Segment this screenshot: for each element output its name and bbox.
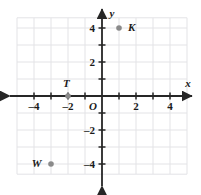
- coordinate-graph: –4–22442–2–4O xy KTW: [0, 0, 201, 195]
- axis-names: xy: [108, 7, 192, 89]
- point-marker-k: [116, 25, 122, 31]
- point-label-k: K: [127, 21, 136, 33]
- x-axis-name: x: [184, 77, 191, 89]
- origin-label: O: [89, 100, 97, 112]
- x-tick-label: –2: [62, 100, 75, 112]
- y-tick-label: 4: [90, 22, 96, 34]
- y-tick-label: 2: [90, 56, 96, 68]
- point-marker-t: [65, 93, 71, 99]
- coordinate-plane-figure: –4–22442–2–4O xy KTW: [0, 0, 201, 195]
- y-tick-label: –4: [83, 158, 96, 170]
- y-axis-name: y: [108, 7, 115, 19]
- x-tick-label: 4: [167, 100, 173, 112]
- x-tick-label: –4: [28, 100, 41, 112]
- plotted-point: W: [32, 157, 54, 169]
- y-tick-label: –2: [83, 124, 96, 136]
- point-label-w: W: [32, 157, 43, 169]
- point-marker-w: [48, 161, 54, 167]
- x-tick-label: 2: [133, 100, 139, 112]
